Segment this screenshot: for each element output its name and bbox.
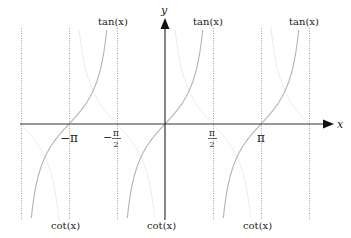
x-axis-label: x [337, 118, 344, 131]
tan-label-2: tan(x) [193, 16, 223, 27]
tan-label-1: tan(x) [98, 16, 128, 27]
tan-label-3: tan(x) [289, 16, 319, 27]
tick-label-pi: π [257, 131, 265, 145]
cot-label-2: cot(x) [147, 220, 176, 231]
cot-branch [21, 124, 59, 221]
svg-text:2: 2 [210, 140, 215, 149]
y-axis-label: y [160, 4, 168, 17]
x-axis-arrow-icon [323, 120, 334, 129]
cot-label-3: cot(x) [243, 220, 272, 231]
svg-text:π: π [209, 128, 215, 138]
tan-cot-chart: x y −π π − π 2 π 2 tan(x) tan(x) tan(x) … [0, 0, 351, 238]
svg-text:π: π [113, 128, 119, 138]
svg-text:2: 2 [114, 140, 119, 149]
cot-label-1: cot(x) [51, 220, 80, 231]
tick-label-neg-pi: −π [60, 131, 78, 145]
cot-branch [271, 27, 309, 124]
y-axis-arrow-icon [161, 18, 170, 29]
tick-label-neg-pi-half: − π 2 [103, 128, 121, 149]
svg-text:−: − [103, 131, 112, 144]
tick-label-pi-half: π 2 [208, 128, 217, 149]
